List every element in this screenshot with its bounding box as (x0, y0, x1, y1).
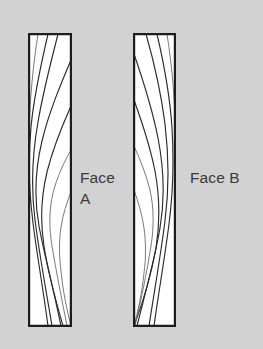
board-a-surface (29, 34, 71, 326)
face-a-label-line2: A (80, 190, 91, 207)
face-b-label: Face B (190, 169, 240, 186)
board-b-surface (134, 34, 175, 326)
face-a-label-line1: Face (80, 169, 115, 186)
board-face-b (134, 34, 175, 326)
board-face-a (29, 34, 71, 326)
figure-root: Face A Face B (0, 0, 263, 349)
board-grain-figure: Face A Face B (0, 0, 263, 349)
